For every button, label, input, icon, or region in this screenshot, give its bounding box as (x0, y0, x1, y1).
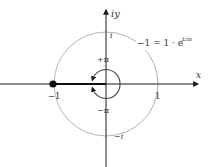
label-minus-one: −1 (48, 91, 61, 101)
equation-lhs: −1 = 1 · e (137, 38, 183, 48)
label-minus-pi: −π (97, 106, 109, 115)
equation: −1 = 1 · e ±iπ (136, 35, 193, 50)
label-one: 1 (155, 91, 160, 101)
euler-diagram: iy x i −i −1 1 +π −π −1 = 1 · e ±iπ (0, 0, 212, 167)
label-minus-i: −i (114, 132, 124, 141)
x-axis-label: x (196, 70, 201, 80)
equation-exponent: ±iπ (181, 35, 193, 42)
point-minus-one-icon (49, 80, 56, 87)
label-i: i (110, 31, 113, 40)
label-plus-pi: +π (97, 55, 109, 64)
y-axis-label: iy (111, 8, 120, 19)
